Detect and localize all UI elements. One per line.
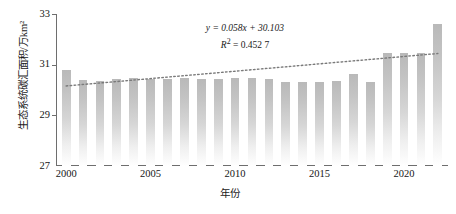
y-axis-tick-label: 33: [26, 9, 50, 20]
x-axis-tick-label: 2020: [384, 168, 424, 179]
y-axis-tick-label-group: 27293133: [20, 0, 50, 214]
r-squared-value: = 0.452 7: [231, 40, 270, 50]
x-axis-title: 年份: [0, 185, 456, 200]
x-axis-tick-label: 2010: [215, 168, 255, 179]
x-axis-tick-label-group: 20002005201020152020: [56, 168, 448, 184]
y-axis-tick-mark: [52, 65, 57, 66]
y-axis-tick-label: 31: [26, 59, 50, 70]
y-axis-tick-label: 29: [26, 110, 50, 121]
y-axis-tick-mark: [52, 14, 57, 15]
x-axis-title-text: 年份: [220, 188, 240, 199]
x-axis-tick-label: 2005: [131, 168, 171, 179]
carbon-sink-area-bar-chart: 生态系统碳汇面积/万km² 27293133 y = 0.058x + 30.1…: [0, 0, 456, 214]
regression-equation-text: y = 0.058x + 30.103: [170, 22, 320, 35]
x-axis-tick-label: 2000: [46, 168, 86, 179]
x-axis-tick-label: 2015: [300, 168, 340, 179]
r-squared-text: R2 = 0.452 7: [170, 35, 320, 52]
trend-line-segment: [66, 54, 438, 86]
regression-annotation: y = 0.058x + 30.103 R2 = 0.452 7: [170, 22, 320, 52]
y-axis-tick-mark: [52, 115, 57, 116]
